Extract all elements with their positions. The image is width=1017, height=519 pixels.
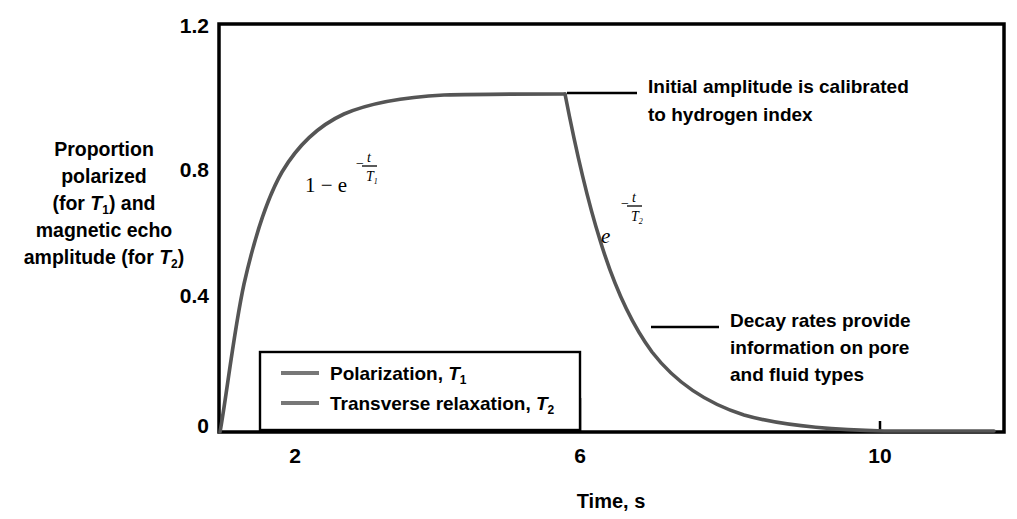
annotation-decay-rates-line-3: and fluid types [730, 364, 864, 385]
annotation-decay-rates-line-2: information on pore [730, 337, 909, 358]
formula-polarization-base: 1 − e [305, 173, 347, 197]
annotation-initial-amplitude-line-2: to hydrogen index [648, 104, 813, 125]
annotation-decay-rates-line-1: Decay rates provide [730, 310, 911, 331]
y-axis-label-line-4: magnetic echo [36, 219, 173, 241]
y-axis-label-line-1: Proportion [54, 138, 154, 160]
formula-polarization-minus: − [355, 156, 364, 171]
x-tick-label-10: 10 [868, 444, 891, 467]
nmr-relaxation-chart: 1.2 0.8 0.4 0 2 6 10 Time, s Proportion … [0, 0, 1017, 519]
legend: Polarization, T1 Transverse relaxation, … [260, 352, 580, 430]
y-tick-label-0_4: 0.4 [180, 284, 210, 307]
y-tick-label-0_8: 0.8 [180, 158, 210, 181]
formula-relaxation-minus: − [620, 196, 629, 211]
y-axis-label-line-3: (for T1) and [52, 192, 155, 217]
annotation-initial-amplitude-line-1: Initial amplitude is calibrated [648, 76, 909, 97]
formula-relaxation-base: e [601, 224, 610, 248]
y-axis-label: Proportion polarized (for T1) and magnet… [24, 138, 185, 271]
x-tick-label-2: 2 [289, 444, 301, 467]
x-tick-label-6: 6 [574, 444, 586, 467]
formula-polarization-lead: 1 − e [305, 173, 347, 197]
legend-label-transverse-relaxation: Transverse relaxation, T2 [330, 393, 555, 417]
y-tick-label-0: 0 [197, 414, 209, 437]
x-axis-title: Time, s [577, 490, 646, 512]
y-axis-label-line-2: polarized [61, 165, 147, 187]
legend-label-polarization: Polarization, T1 [330, 363, 467, 387]
y-tick-label-1_2: 1.2 [180, 14, 209, 37]
y-axis-label-line-5: amplitude (for T2) [24, 246, 185, 271]
formula-relaxation-lead: e [601, 224, 610, 248]
